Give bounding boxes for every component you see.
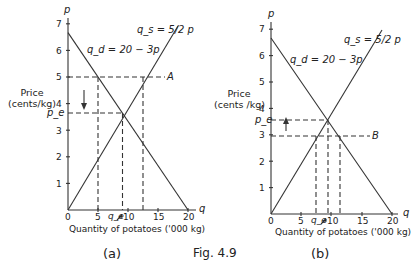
panel-b-ytick-7: 7: [259, 24, 265, 34]
panel-a-ytick-7: 7: [56, 19, 62, 29]
panel-b-x-symbol: q: [403, 207, 409, 218]
panel-b-supply-label: q_s = 5/2 p: [344, 34, 401, 45]
panel-b-y-label: Price (cents /kg): [214, 88, 264, 110]
panel-a-caption: (a): [103, 246, 121, 261]
figure-caption: Fig. 4.9: [193, 246, 237, 260]
panel-b-ytick-6: 6: [259, 51, 265, 61]
panel-a-ytick-5: 5: [56, 72, 62, 82]
panel-b-xtick-5: 5: [298, 216, 304, 226]
panel-b-ytick-1: 1: [259, 183, 265, 193]
panel-a-line-label: A: [167, 71, 174, 82]
panel-a-ytick-3: 3: [56, 126, 62, 136]
panel-a-guides: [68, 77, 165, 210]
panel-b-xtick-0: 0: [268, 216, 274, 226]
panel-b-xtick-15: 15: [357, 216, 368, 226]
panel-a-ytick-1: 1: [56, 179, 62, 189]
panel-b-xtick-10: 10: [327, 216, 338, 226]
panel-b-pe-label: p_e: [255, 114, 273, 125]
panel-a-supply-label: q_s = 5/2 p: [137, 24, 194, 35]
panel-a-xtick-20: 20: [183, 212, 194, 222]
panel-a-x-symbol: q: [199, 203, 205, 214]
panel-b-demand-label: q_d = 20 − 3p: [290, 54, 363, 65]
panel-b-x-label: Quantity of potatoes ('000 kg): [275, 227, 411, 237]
panel-a-y-label: Price (cents/kg): [8, 87, 56, 109]
panel-a-ytick-6: 6: [56, 46, 62, 56]
panel-a-ytick-2: 2: [56, 152, 62, 162]
panel-b-ytick-5: 5: [259, 77, 265, 87]
panel-a-xtick-10: 10: [123, 212, 134, 222]
panel-b-axes: [269, 22, 398, 216]
panel-b-y-symbol: p: [268, 8, 274, 19]
panel-b-guides: [271, 120, 370, 214]
panel-a-demand-label: q_d = 20 − 3p: [87, 44, 160, 55]
panel-a-xtick-15: 15: [153, 212, 164, 222]
panel-b-ytick-2: 2: [259, 157, 265, 167]
panel-a-y-symbol: p: [64, 4, 70, 15]
panel-a-arrowhead: [81, 103, 87, 110]
panel-a-pe-label: p_e: [47, 107, 65, 118]
panel-b-ytick-3: 3: [259, 130, 265, 140]
panel-a-x-label: Quantity of potatoes ('000 kg): [69, 224, 205, 234]
panel-a-xtick-5: 5: [95, 212, 101, 222]
panel-a-qe-label: q_e: [108, 211, 124, 221]
panel-b-qe-label: q_e: [311, 215, 327, 225]
panel-b-line-label: B: [372, 130, 379, 141]
panel-a-xtick-0: 0: [65, 212, 71, 222]
panel-a-demand-curve: [68, 33, 188, 210]
panel-b-caption: (b): [311, 246, 329, 261]
panel-b-xtick-20: 20: [387, 216, 398, 226]
